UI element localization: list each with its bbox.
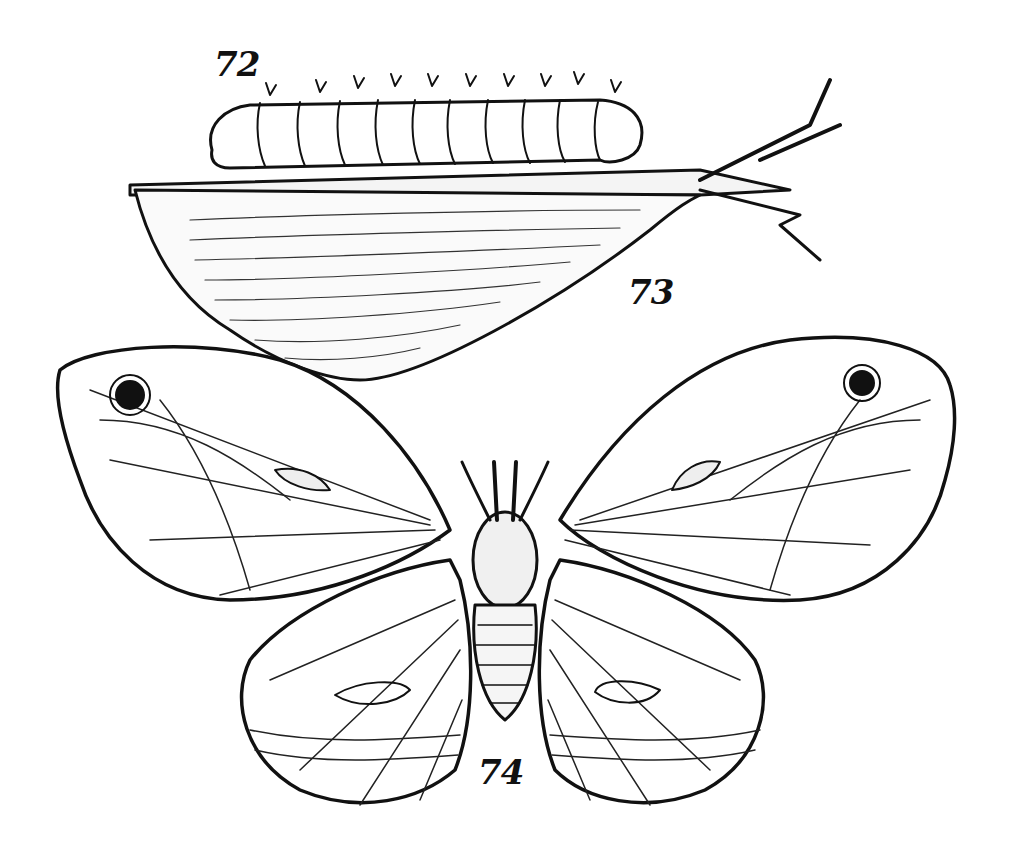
eyespot-right	[850, 371, 874, 395]
illustration-canvas	[0, 0, 1030, 857]
eyespot-left	[116, 381, 144, 409]
figure-label-73: 73	[628, 272, 673, 312]
caterpillar	[211, 72, 642, 168]
figure-label-72: 72	[214, 44, 259, 84]
moth	[58, 337, 955, 805]
figure-label-74: 74	[478, 752, 523, 792]
